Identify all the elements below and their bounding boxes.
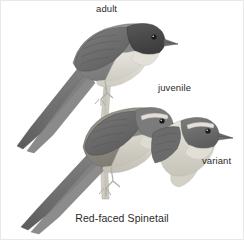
bird-illustration-plate: adult juvenile variant Red-faced Spineta… — [0, 0, 244, 240]
figure-label-adult: adult — [96, 3, 117, 14]
species-caption: Red-faced Spinetail — [1, 212, 243, 224]
figure-label-variant: variant — [202, 155, 231, 166]
figure-label-juvenile: juvenile — [158, 82, 191, 93]
bird-figure-variant — [151, 117, 233, 187]
plate-artwork — [1, 1, 244, 240]
